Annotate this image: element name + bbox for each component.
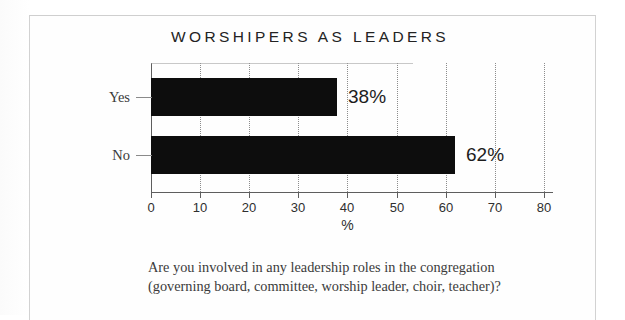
tick-label-70: 70	[475, 200, 515, 215]
category-connector-yes	[136, 97, 152, 98]
bar-value-no: 62%	[466, 136, 504, 174]
category-connector-no	[136, 155, 152, 156]
caption-line-2: (governing board, committee, worship lea…	[148, 277, 578, 296]
x-axis-line	[151, 192, 553, 193]
caption-line-1: Are you involved in any leadership roles…	[148, 258, 578, 277]
gridline-80	[544, 63, 545, 192]
plot-top-rule	[151, 63, 413, 64]
bar-no	[151, 136, 455, 174]
chart-title: WORSHIPERS AS LEADERS	[60, 28, 560, 46]
tick-mark-40	[347, 192, 348, 198]
tick-label-80: 80	[524, 200, 564, 215]
tick-mark-50	[397, 192, 398, 198]
figure-caption: Are you involved in any leadership roles…	[148, 258, 578, 296]
scan-page-shadow	[0, 0, 29, 315]
tick-mark-10	[200, 192, 201, 198]
tick-mark-20	[249, 192, 250, 198]
tick-label-20: 20	[229, 200, 269, 215]
tick-mark-30	[298, 192, 299, 198]
tick-label-40: 40	[327, 200, 367, 215]
tick-label-60: 60	[426, 200, 466, 215]
tick-mark-60	[446, 192, 447, 198]
tick-label-50: 50	[377, 200, 417, 215]
tick-label-0: 0	[131, 200, 171, 215]
tick-mark-80	[544, 192, 545, 198]
bar-yes	[151, 78, 337, 116]
category-label-yes: Yes	[60, 89, 130, 106]
tick-mark-70	[495, 192, 496, 198]
x-axis-title: %	[151, 217, 544, 233]
tick-mark-0	[151, 192, 152, 198]
bar-value-yes: 38%	[348, 78, 386, 116]
category-label-no: No	[60, 147, 130, 164]
tick-label-30: 30	[278, 200, 318, 215]
tick-label-10: 10	[180, 200, 220, 215]
